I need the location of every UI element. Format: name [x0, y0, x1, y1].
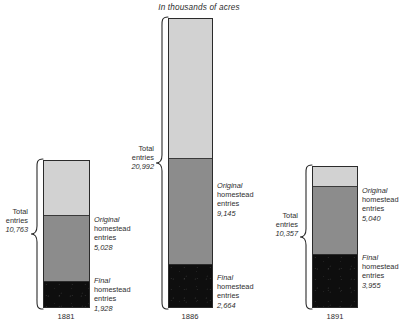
original-caption-line3-1886: entries: [217, 199, 254, 208]
total-entries-label-1891: Total entries 10,357: [266, 211, 298, 239]
total-caption-line2-1886: entries: [122, 153, 154, 162]
bar-1891-segment-original: [313, 187, 357, 255]
bar-1881-segment-final: [44, 282, 89, 307]
original-value-1891: 5,040: [362, 214, 399, 223]
final-value-1886: 2,664: [217, 301, 254, 310]
total-brace-1881: [30, 158, 44, 310]
total-brace-1891: [299, 164, 313, 310]
year-label-1886: 1886: [160, 312, 220, 321]
bar-1891: [312, 166, 358, 308]
final-caption-line3-1891: entries: [362, 271, 399, 280]
original-caption-line1-1881: Original: [94, 215, 131, 224]
final-entries-label-1881: Final homestead entries 1,928: [94, 276, 131, 313]
final-caption-line2-1891: homestead: [362, 262, 399, 271]
original-caption-line1-1886: Original: [217, 181, 254, 190]
bar-1886-segment-final: [169, 265, 212, 307]
original-caption-line3-1881: entries: [94, 233, 131, 242]
original-value-1881: 5,028: [94, 243, 131, 252]
total-caption-line2-1881: entries: [0, 216, 28, 225]
total-caption-line2-1891: entries: [266, 220, 298, 229]
bar-1886-segment-other: [169, 19, 212, 159]
final-value-1891: 3,955: [362, 281, 399, 290]
final-caption-line1-1891: Final: [362, 253, 399, 262]
total-entries-label-1881: Total entries 10,763: [0, 207, 28, 235]
bar-1891-segment-other: [313, 167, 357, 187]
total-caption-line1-1886: Total: [122, 144, 154, 153]
bar-1891-segment-final: [313, 255, 357, 307]
chart-title: In thousands of acres: [0, 3, 398, 12]
total-caption-line1-1891: Total: [266, 211, 298, 220]
total-value-1891: 10,357: [266, 229, 298, 238]
total-value-1886: 20,992: [122, 162, 154, 171]
original-caption-line2-1891: homestead: [362, 195, 399, 204]
final-entries-label-1891: Final homestead entries 3,955: [362, 253, 399, 290]
total-brace-1886: [155, 16, 169, 310]
original-value-1886: 9,145: [217, 209, 254, 218]
total-value-1881: 10,763: [0, 225, 28, 234]
final-caption-line1-1881: Final: [94, 276, 131, 285]
final-value-1881: 1,928: [94, 304, 131, 313]
original-entries-label-1891: Original homestead entries 5,040: [362, 186, 399, 223]
final-caption-line3-1881: entries: [94, 294, 131, 303]
original-caption-line1-1891: Original: [362, 186, 399, 195]
original-entries-label-1886: Original homestead entries 9,145: [217, 181, 254, 218]
final-entries-label-1886: Final homestead entries 2,664: [217, 273, 254, 310]
bar-1886: [168, 18, 213, 308]
bar-1881-segment-other: [44, 161, 89, 216]
original-caption-line2-1881: homestead: [94, 224, 131, 233]
year-label-1891: 1891: [305, 312, 365, 321]
total-entries-label-1886: Total entries 20,992: [122, 144, 154, 172]
final-caption-line2-1886: homestead: [217, 282, 254, 291]
final-caption-line1-1886: Final: [217, 273, 254, 282]
final-caption-line2-1881: homestead: [94, 285, 131, 294]
original-entries-label-1881: Original homestead entries 5,028: [94, 215, 131, 252]
original-caption-line2-1886: homestead: [217, 190, 254, 199]
total-caption-line1-1881: Total: [0, 207, 28, 216]
year-label-1881: 1881: [36, 312, 96, 321]
bar-1881: [43, 160, 90, 308]
original-caption-line3-1891: entries: [362, 204, 399, 213]
final-caption-line3-1886: entries: [217, 291, 254, 300]
bar-1881-segment-original: [44, 216, 89, 282]
bar-1886-segment-original: [169, 159, 212, 265]
